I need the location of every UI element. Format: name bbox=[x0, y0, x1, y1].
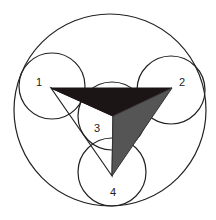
circle-1 bbox=[19, 53, 85, 119]
label-2: 2 bbox=[179, 76, 185, 88]
label-1: 1 bbox=[36, 76, 42, 88]
label-3: 3 bbox=[94, 122, 100, 134]
tetrahedron-circles-diagram: 1 2 3 4 bbox=[0, 0, 216, 220]
label-4: 4 bbox=[110, 186, 116, 198]
